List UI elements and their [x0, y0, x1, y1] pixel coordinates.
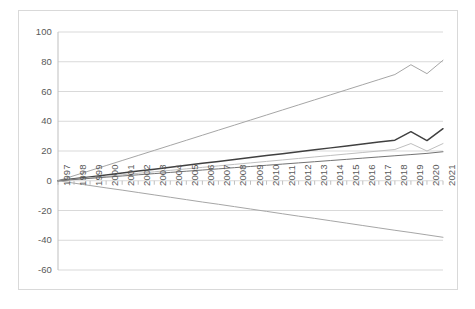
- x-tick-label: 2018: [399, 164, 409, 186]
- x-tick-label: 2000: [110, 164, 120, 186]
- x-tick-label: 1998: [78, 164, 88, 186]
- x-tick-label: 2006: [206, 164, 216, 186]
- y-tick-label: 0: [18, 176, 52, 186]
- x-tick-label: 2013: [319, 164, 329, 186]
- x-tick-label: 2020: [431, 164, 441, 186]
- y-tick-label: 40: [18, 116, 52, 126]
- x-tick-label: 2011: [287, 165, 297, 186]
- x-tick-label: 2005: [190, 164, 200, 186]
- x-tick-label: 2008: [238, 164, 248, 186]
- y-tick-label: 20: [18, 146, 52, 156]
- x-tick-label: 2015: [351, 164, 361, 186]
- chart-plot-area: [0, 0, 475, 309]
- x-tick-label: 1999: [94, 164, 104, 186]
- x-tick-label: 2009: [255, 164, 265, 186]
- gridlines: [58, 32, 443, 270]
- x-tick-label: 2014: [335, 164, 345, 186]
- series-line-series-5: [58, 181, 443, 238]
- x-tick-label: 2010: [271, 164, 281, 186]
- x-tick-label: 2012: [303, 164, 313, 186]
- x-tick-label: 2002: [142, 164, 152, 186]
- y-tick-label: 100: [18, 27, 52, 37]
- x-tick-label: 2019: [415, 164, 425, 186]
- chart-container: 100806040200-20-40-60 199719981999200020…: [0, 0, 475, 309]
- x-tick-label: 1997: [62, 164, 72, 186]
- x-tick-label: 2004: [174, 164, 184, 186]
- x-tick-label: 2021: [447, 164, 457, 186]
- y-tick-label: -20: [18, 206, 52, 216]
- x-tick-label: 2003: [158, 164, 168, 186]
- y-tick-label: -40: [18, 235, 52, 245]
- y-tick-label: 60: [18, 87, 52, 97]
- x-tick-label: 2017: [383, 164, 393, 186]
- x-tick-label: 2007: [222, 164, 232, 186]
- x-tick-label: 2016: [367, 164, 377, 186]
- y-tick-label: 80: [18, 57, 52, 67]
- y-tick-label: -60: [18, 265, 52, 275]
- x-tick-label: 2001: [126, 164, 136, 186]
